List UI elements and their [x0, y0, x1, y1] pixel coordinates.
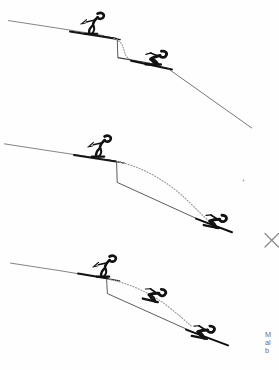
figure-artwork — [0, 0, 279, 370]
take-off-skier-2 — [87, 133, 112, 159]
trajectory-dotted-2 — [117, 162, 209, 222]
landing-skier-1 — [144, 48, 167, 68]
cliff-face-3 — [107, 279, 108, 293]
take-off-skier-3 — [92, 253, 117, 279]
speck — [243, 180, 245, 182]
caption-line-2: al — [265, 339, 279, 347]
caption-block: M al b — [265, 331, 279, 356]
trajectory-dotted-3 — [108, 279, 192, 326]
figure-root: M al b — [0, 0, 279, 370]
x-mark — [265, 234, 279, 248]
runout-slope-1 — [168, 69, 252, 129]
lower-slope-line-2 — [117, 182, 205, 222]
panel-1 — [8, 10, 252, 128]
airborne-skier-3 — [141, 283, 166, 306]
trajectory-dotted-1 — [114, 39, 129, 59]
caption-line-3: b — [265, 347, 279, 355]
caption-line-1: M — [265, 331, 279, 339]
cliff-face-2 — [117, 162, 118, 182]
panel-3 — [10, 253, 228, 345]
panel-2 — [4, 133, 244, 232]
cliff-face-1 — [117, 39, 118, 57]
